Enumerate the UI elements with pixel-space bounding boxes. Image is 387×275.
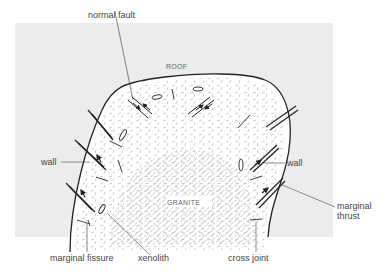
label-normal-fault: normal fault xyxy=(88,10,135,20)
label-cross-joint: cross joint xyxy=(228,253,269,263)
label-marginal-thrust-2: thrust xyxy=(337,211,360,221)
label-marginal-fissure: marginal fissure xyxy=(50,253,114,263)
label-wall-right: wall xyxy=(287,158,303,168)
label-granite: GRANITE xyxy=(167,198,200,208)
label-wall-left: wall xyxy=(41,157,57,167)
label-roof: ROOF xyxy=(166,62,187,72)
granite-intrusion-diagram xyxy=(0,0,387,275)
label-marginal-thrust-1: marginal xyxy=(337,201,372,211)
label-xenolith: xenolith xyxy=(138,253,169,263)
